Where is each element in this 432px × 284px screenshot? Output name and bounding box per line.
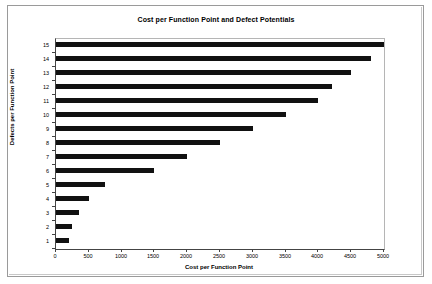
bar-row [56,123,384,137]
x-axis-tick-label: 3500 [270,253,300,259]
y-axis-tick-label: 9 [33,126,49,132]
bar [56,126,253,131]
y-axis-tick-label: 11 [33,98,49,104]
bar [56,238,69,243]
y-axis-tick-label: 5 [33,182,49,188]
y-axis-tick-label: 8 [33,140,49,146]
plot-area [55,38,385,250]
y-axis-tick-label: 14 [33,56,49,62]
y-axis-tick-label: 15 [33,42,49,48]
x-axis-tick-mark [285,249,286,252]
x-axis-tick-label: 500 [73,253,103,259]
x-axis-tick-mark [121,249,122,252]
bar-row [56,137,384,151]
x-axis-tick-label: 1500 [138,253,168,259]
x-axis-title: Cost per Function Point [55,264,383,270]
x-axis-tick-label: 0 [40,253,70,259]
y-axis-tick-label: 6 [33,168,49,174]
y-axis-tick-mark [52,80,55,81]
y-axis-tick-mark [52,136,55,137]
y-axis-tick-label: 13 [33,70,49,76]
x-axis-tick-mark [317,249,318,252]
y-axis-tick-mark [52,220,55,221]
x-axis-tick-mark [219,249,220,252]
chart-title: Cost per Function Point and Defect Poten… [0,16,432,23]
bar-row [56,81,384,95]
x-axis-tick-label: 4500 [335,253,365,259]
y-axis-tick-label: 3 [33,210,49,216]
bar [56,196,89,201]
y-axis-tick-mark [52,234,55,235]
x-axis-tick-mark [55,249,56,252]
x-axis-tick-label: 1000 [106,253,136,259]
y-axis-tick-mark [52,122,55,123]
x-axis-tick-mark [186,249,187,252]
bar-row [56,67,384,81]
y-axis-tick-mark [52,94,55,95]
x-axis-tick-mark [153,249,154,252]
bar-row [56,109,384,123]
y-axis-tick-label: 2 [33,224,49,230]
bar [56,112,286,117]
bar-row [56,193,384,207]
x-axis-tick-mark [383,249,384,252]
bar-row [56,179,384,193]
y-axis-tick-mark [52,108,55,109]
x-axis-tick-mark [350,249,351,252]
bar [56,182,105,187]
bar [56,84,332,89]
y-axis-title: Defects per Function Point [9,27,15,187]
y-axis-tick-mark [52,192,55,193]
bar [56,210,79,215]
bar [56,56,371,61]
bar [56,42,384,47]
y-axis-tick-mark [52,206,55,207]
x-axis-tick-mark [88,249,89,252]
bar-row [56,221,384,235]
x-axis-tick-label: 5000 [368,253,398,259]
y-axis-tick-label: 4 [33,196,49,202]
y-axis-tick-mark [52,164,55,165]
bar-row [56,165,384,179]
bar-row [56,53,384,67]
y-axis-tick-mark [52,66,55,67]
y-axis-tick-label: 7 [33,154,49,160]
y-axis-tick-mark [52,150,55,151]
bar-row [56,39,384,53]
bar [56,98,318,103]
y-axis-tick-label: 12 [33,84,49,90]
chart-figure: Cost per Function Point and Defect Poten… [0,0,432,284]
bar [56,224,72,229]
bar-row [56,207,384,221]
bar [56,168,154,173]
x-axis-tick-label: 4000 [302,253,332,259]
y-axis-tick-label: 10 [33,112,49,118]
y-axis-tick-mark [52,178,55,179]
x-axis-tick-label: 2000 [171,253,201,259]
bar-row [56,235,384,249]
x-axis-tick-label: 2500 [204,253,234,259]
bar [56,140,220,145]
bar-row [56,95,384,109]
y-axis-tick-label: 1 [33,238,49,244]
x-axis-tick-label: 3000 [237,253,267,259]
y-axis-tick-mark [52,52,55,53]
bar [56,70,351,75]
bar-row [56,151,384,165]
x-axis-tick-mark [252,249,253,252]
bar [56,154,187,159]
